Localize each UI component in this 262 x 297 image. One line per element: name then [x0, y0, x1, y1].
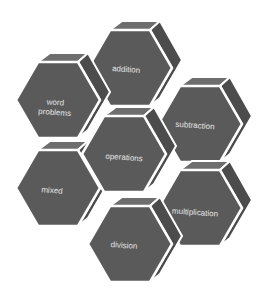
label-word-problems: word problems: [38, 97, 72, 119]
hex-division: [88, 197, 182, 282]
hexagon-diagram: [0, 0, 262, 297]
label-division: division: [110, 240, 137, 252]
label-mixed: mixed: [41, 185, 63, 196]
label-addition: addition: [112, 64, 141, 76]
hex-word-problems: [16, 53, 110, 138]
hex-operations: [82, 107, 176, 192]
